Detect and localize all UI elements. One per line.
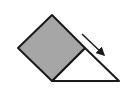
incline-diagram <box>0 0 125 97</box>
diagram-canvas <box>0 0 125 97</box>
